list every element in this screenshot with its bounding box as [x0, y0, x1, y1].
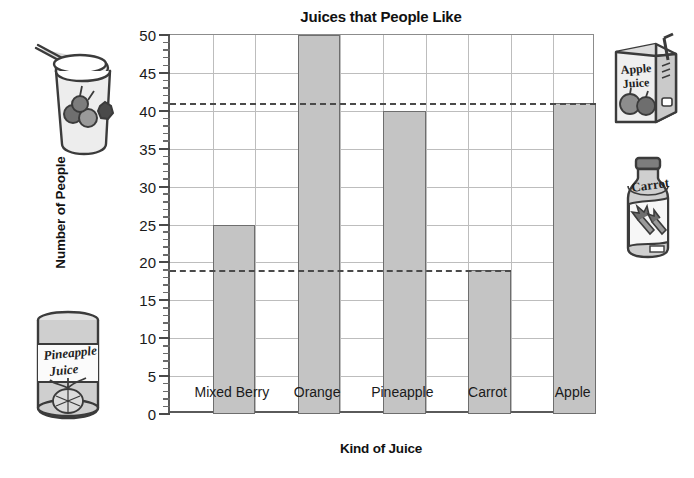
bar-orange: [298, 35, 341, 414]
y-axis-minor-tick: [163, 87, 170, 89]
grid-line-horizontal: [170, 73, 593, 74]
y-axis-tick: [159, 72, 170, 74]
y-axis-tick: [159, 375, 170, 377]
y-axis-tick: [159, 413, 170, 415]
y-axis-minor-tick: [163, 269, 170, 271]
svg-text:Juice: Juice: [622, 75, 650, 91]
y-axis-minor-tick: [163, 193, 170, 195]
y-axis-tick-label: 0: [116, 406, 156, 423]
y-axis-tick-label: 30: [116, 178, 156, 195]
y-axis-tick: [159, 186, 170, 188]
y-axis-tick: [159, 337, 170, 339]
y-axis-tick-label: 45: [116, 64, 156, 81]
y-axis-minor-tick: [163, 353, 170, 355]
x-axis-tick-label: Orange: [294, 384, 341, 400]
reference-line-19: [170, 270, 511, 272]
y-axis-minor-tick: [163, 284, 170, 286]
y-axis-minor-tick: [163, 368, 170, 370]
grid-line-vertical: [255, 35, 256, 411]
bar-apple: [553, 103, 596, 414]
y-axis-minor-tick: [163, 102, 170, 104]
y-axis-tick-label: 15: [116, 292, 156, 309]
y-axis-minor-tick: [163, 42, 170, 44]
y-axis-minor-tick: [163, 398, 170, 400]
x-axis-tick-label: Mixed Berry: [195, 384, 270, 400]
y-axis-tick-label: 35: [116, 140, 156, 157]
grid-line-horizontal: [170, 149, 593, 150]
y-axis-minor-tick: [163, 49, 170, 51]
y-axis-tick-label: 5: [116, 368, 156, 385]
y-axis-tick: [159, 261, 170, 263]
grid-line-vertical: [511, 35, 512, 411]
y-axis-minor-tick: [163, 360, 170, 362]
y-axis-tick: [159, 299, 170, 301]
y-axis-minor-tick: [163, 156, 170, 158]
y-axis-minor-tick: [163, 345, 170, 347]
y-axis-minor-tick: [163, 246, 170, 248]
y-axis-minor-tick: [163, 163, 170, 165]
y-axis-tick: [159, 224, 170, 226]
carrot-juice-bottle-illustration: Carrot: [612, 152, 686, 262]
x-axis-title: Kind of Juice: [168, 441, 594, 456]
y-axis-minor-tick: [163, 178, 170, 180]
y-axis-minor-tick: [163, 277, 170, 279]
y-axis-tick: [159, 110, 170, 112]
y-axis-minor-tick: [163, 315, 170, 317]
y-axis-minor-tick: [163, 140, 170, 142]
chart-title: Juices that People Like: [168, 8, 594, 25]
x-axis-tick-label: Apple: [555, 384, 591, 400]
pineapple-juice-can-illustration: Pineapple Juice: [20, 302, 116, 426]
reference-line-41: [170, 103, 596, 105]
plot-area: 05101520253035404550: [168, 34, 594, 413]
y-axis-minor-tick: [163, 125, 170, 127]
y-axis-minor-tick: [163, 406, 170, 408]
y-axis-minor-tick: [163, 133, 170, 135]
y-axis-minor-tick: [163, 307, 170, 309]
y-axis-minor-tick: [163, 65, 170, 67]
y-axis-tick-label: 40: [116, 102, 156, 119]
y-axis-tick-label: 10: [116, 330, 156, 347]
y-axis-minor-tick: [163, 254, 170, 256]
y-axis-minor-tick: [163, 330, 170, 332]
mixed-berry-smoothie-cup-illustration: [18, 26, 122, 158]
y-axis-minor-tick: [163, 322, 170, 324]
y-axis-minor-tick: [163, 57, 170, 59]
apple-juice-carton-illustration: Apple Juice: [602, 26, 688, 132]
y-axis-minor-tick: [163, 216, 170, 218]
plot-inner: [170, 35, 593, 411]
y-axis-minor-tick: [163, 171, 170, 173]
chart-page: Juices that People Like Number of People…: [0, 0, 694, 478]
y-axis-minor-tick: [163, 231, 170, 233]
bar-pineapple: [383, 111, 426, 414]
y-axis-minor-tick: [163, 209, 170, 211]
y-axis-minor-tick: [163, 391, 170, 393]
y-axis-minor-tick: [163, 383, 170, 385]
y-axis-minor-tick: [163, 292, 170, 294]
grid-line-horizontal: [170, 111, 593, 112]
y-axis-tick-label: 20: [116, 254, 156, 271]
y-axis-minor-tick: [163, 95, 170, 97]
y-axis-minor-tick: [163, 80, 170, 82]
grid-line-vertical: [426, 35, 427, 411]
y-axis-minor-tick: [163, 239, 170, 241]
grid-line-vertical: [340, 35, 341, 411]
y-axis-tick: [159, 148, 170, 150]
svg-text:Juice: Juice: [48, 361, 80, 379]
y-axis-tick-label: 25: [116, 216, 156, 233]
y-axis-minor-tick: [163, 201, 170, 203]
x-axis-tick-label: Carrot: [468, 384, 507, 400]
x-axis-tick-label: Pineapple: [371, 384, 433, 400]
grid-line-horizontal: [170, 187, 593, 188]
y-axis-tick: [159, 34, 170, 36]
y-axis-tick-label: 50: [116, 27, 156, 44]
y-axis-minor-tick: [163, 118, 170, 120]
